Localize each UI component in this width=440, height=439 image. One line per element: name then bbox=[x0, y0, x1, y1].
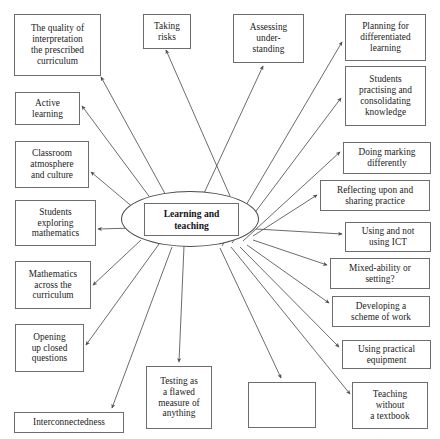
edge-center-to-reflecting-upon-and-sharing-practice bbox=[253, 195, 317, 236]
node-active-learning[interactable]: Activelearning bbox=[15, 92, 80, 125]
edge-center-to-quality-of-interpretation bbox=[101, 77, 174, 210]
edge-center-to-taking-risks bbox=[166, 50, 230, 196]
node-label: Studentsexploringmathematics bbox=[32, 207, 79, 239]
node-doing-marking-differently[interactable]: Doing markingdifferently bbox=[343, 142, 431, 174]
node-using-practical-equipment[interactable]: Using practicalequipment bbox=[342, 340, 431, 369]
node-opening-up-closed-questions[interactable]: Openingup closedquestions bbox=[15, 324, 84, 372]
node-label: Assessingunder-standing bbox=[250, 22, 288, 54]
node-quality-of-interpretation[interactable]: The quality ofinterpretationthe prescrib… bbox=[14, 14, 101, 76]
node-label: Planning fordifferentiatedlearning bbox=[360, 21, 410, 53]
node-label: Teachingwithouta textbook bbox=[370, 389, 409, 421]
node-label: Interconnectedness bbox=[33, 417, 105, 428]
node-label: Mathematicsacross thecurriculum bbox=[29, 269, 77, 301]
center-node-learning-and-teaching[interactable]: Learning and teaching bbox=[144, 203, 239, 236]
concept-map-canvas: Learning and teaching The quality ofinte… bbox=[0, 0, 440, 439]
node-assessing-understanding[interactable]: Assessingunder-standing bbox=[233, 14, 304, 63]
edge-center-to-unlabelled-blank-node bbox=[220, 248, 281, 378]
node-label: Openingup closedquestions bbox=[32, 332, 68, 364]
node-interconnectedness[interactable]: Interconnectedness bbox=[14, 412, 124, 433]
edge-center-to-using-practical-equipment bbox=[240, 247, 339, 347]
node-mathematics-across-the-curriculum[interactable]: Mathematicsacross thecurriculum bbox=[15, 261, 91, 309]
center-node-label: Learning and teaching bbox=[164, 208, 220, 231]
node-label: Using and notusing ICT bbox=[362, 226, 415, 248]
node-taking-risks[interactable]: Takingrisks bbox=[143, 14, 191, 49]
edge-center-to-using-and-not-using-ict bbox=[256, 229, 342, 234]
node-planning-for-differentiated-learning[interactable]: Planning fordifferentiatedlearning bbox=[345, 14, 426, 61]
node-students-exploring-mathematics[interactable]: Studentsexploringmathematics bbox=[15, 200, 96, 246]
edge-center-to-testing-as-a-flawed-measure bbox=[179, 246, 184, 362]
node-label: Reflecting upon andsharing practice bbox=[337, 185, 413, 207]
node-label: Developing ascheme of work bbox=[351, 301, 411, 323]
node-label: Classroomatmosphereand culture bbox=[30, 148, 73, 180]
node-mixed-ability-or-setting[interactable]: Mixed-ability orsetting? bbox=[330, 258, 430, 289]
edge-center-to-opening-up-closed-questions bbox=[86, 244, 159, 345]
edge-center-to-active-learning bbox=[82, 106, 160, 211]
node-label: Activelearning bbox=[32, 98, 63, 120]
node-label: Mixed-ability orsetting? bbox=[349, 263, 411, 285]
node-unlabelled-blank-node[interactable] bbox=[248, 382, 316, 428]
edge-center-to-mixed-ability-or-setting bbox=[253, 240, 327, 265]
node-label: Testing asa flawedmeasure ofanything bbox=[158, 376, 199, 419]
node-classroom-atmosphere-and-culture[interactable]: Classroomatmosphereand culture bbox=[15, 141, 89, 188]
node-label: Takingrisks bbox=[154, 21, 180, 43]
node-label: Doing markingdifferently bbox=[358, 147, 415, 169]
edge-center-to-developing-a-scheme-of-work bbox=[247, 245, 329, 303]
edge-center-to-mathematics-across-the-curriculum bbox=[93, 240, 141, 285]
node-label: Studentspractising andconsolidatingknowl… bbox=[359, 74, 412, 117]
node-label: Using practicalequipment bbox=[358, 344, 415, 366]
node-label: The quality ofinterpretationthe prescrib… bbox=[31, 23, 84, 66]
node-reflecting-upon-and-sharing-practice[interactable]: Reflecting upon andsharing practice bbox=[320, 180, 430, 211]
node-using-and-not-using-ict[interactable]: Using and notusing ICT bbox=[345, 222, 431, 252]
node-testing-as-a-flawed-measure[interactable]: Testing asa flawedmeasure ofanything bbox=[146, 366, 212, 429]
node-teaching-without-a-textbook[interactable]: Teachingwithouta textbook bbox=[352, 382, 428, 429]
node-students-practising-and-consolidating-knowledge[interactable]: Studentspractising andconsolidatingknowl… bbox=[345, 66, 426, 126]
node-developing-a-scheme-of-work[interactable]: Developing ascheme of work bbox=[332, 296, 430, 327]
